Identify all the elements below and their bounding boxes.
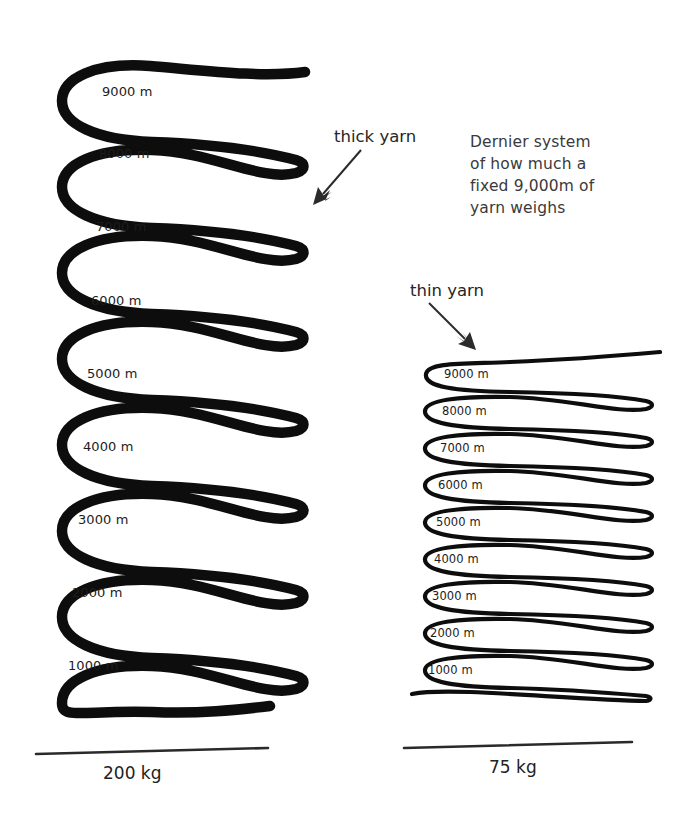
- annotation-layer: [0, 0, 687, 825]
- figure-canvas: 9000 m 8000 m 7000 m 6000 m 5000 m 4000 …: [0, 0, 687, 825]
- thin-yarn-weight-label: 75 kg: [489, 759, 537, 776]
- figure-caption: Dernier system of how much a fixed 9,000…: [470, 131, 660, 219]
- thick-yarn-arrow-icon: [313, 150, 361, 205]
- thin-yarn-baseline: [404, 742, 632, 748]
- thick-yarn-baseline: [36, 748, 268, 754]
- thin-yarn-annotation: thin yarn: [410, 283, 484, 300]
- thick-yarn-annotation: thick yarn: [334, 129, 416, 146]
- thick-yarn-weight-label: 200 kg: [103, 765, 162, 782]
- thin-yarn-arrow-icon: [429, 303, 476, 350]
